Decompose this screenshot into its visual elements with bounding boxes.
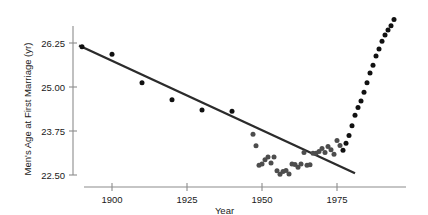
data-point xyxy=(368,70,373,75)
data-point xyxy=(266,155,271,160)
y-tick-label: 22.50 xyxy=(41,170,65,181)
data-point xyxy=(365,80,370,85)
data-point xyxy=(347,133,352,138)
scatter-plot: 22.5023.7525.0026.251900192519501975Year… xyxy=(0,0,428,215)
data-point xyxy=(287,171,292,176)
data-point xyxy=(260,162,265,167)
data-point xyxy=(344,141,349,146)
data-point xyxy=(251,132,256,137)
data-point xyxy=(374,54,379,59)
data-point xyxy=(308,162,313,167)
y-axis-title: Men's Age at First Marriage (yr) xyxy=(22,43,33,176)
data-point xyxy=(269,161,274,166)
data-points xyxy=(80,17,397,177)
axis-labels: 22.5023.7525.0026.251900192519501975Year… xyxy=(22,38,348,215)
data-point xyxy=(338,143,343,148)
data-point xyxy=(356,105,361,110)
data-point xyxy=(332,152,337,157)
data-point xyxy=(323,150,328,155)
data-point xyxy=(389,23,394,28)
data-point xyxy=(335,138,340,143)
data-point xyxy=(383,32,388,37)
chart-figure: 22.5023.7525.0026.251900192519501975Year… xyxy=(0,0,428,215)
data-point xyxy=(230,109,235,114)
data-point xyxy=(329,147,334,152)
data-point xyxy=(392,17,397,22)
x-tick-label: 1950 xyxy=(251,194,272,205)
x-tick-label: 1925 xyxy=(176,194,197,205)
data-point xyxy=(353,113,358,118)
data-point xyxy=(200,107,205,112)
data-point xyxy=(341,148,346,153)
x-tick-label: 1900 xyxy=(101,194,122,205)
data-point xyxy=(272,155,277,160)
data-point xyxy=(359,99,364,104)
data-point xyxy=(302,150,307,155)
data-point xyxy=(254,143,259,148)
data-point xyxy=(110,52,115,57)
data-point xyxy=(380,39,385,44)
data-point xyxy=(299,162,304,167)
x-tick-label: 1975 xyxy=(326,194,347,205)
data-point xyxy=(350,123,355,128)
y-tick-label: 25.00 xyxy=(41,82,65,93)
data-point xyxy=(80,44,85,49)
data-point xyxy=(362,90,367,95)
y-tick-label: 26.25 xyxy=(41,38,65,49)
y-tick-label: 23.75 xyxy=(41,126,65,137)
data-point xyxy=(140,80,145,85)
data-point xyxy=(386,27,391,32)
axes xyxy=(69,26,406,191)
data-point xyxy=(377,46,382,51)
data-point xyxy=(170,97,175,102)
data-point xyxy=(371,63,376,68)
x-axis-title: Year xyxy=(215,205,234,215)
